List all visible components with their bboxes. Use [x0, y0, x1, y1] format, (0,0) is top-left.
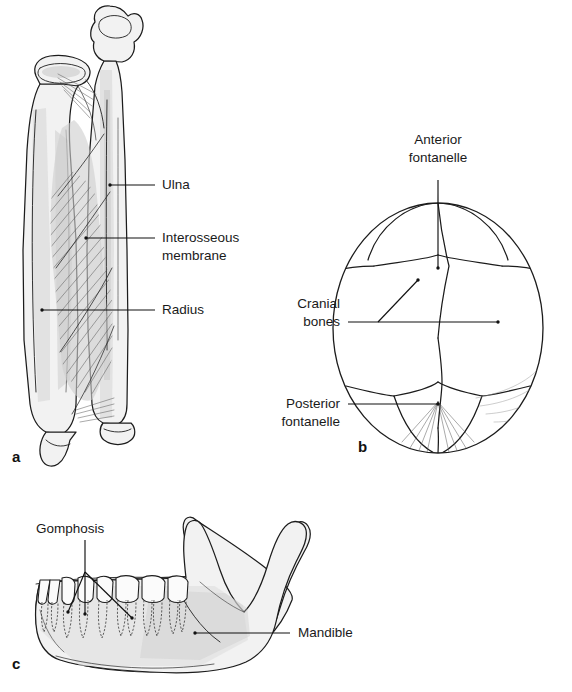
panel-a-illustration: Ulna Interosseous membrane Radius a	[0, 0, 290, 480]
label-anterior-fontanelle-line1: Anterior	[414, 132, 462, 147]
tooth-premolar-2	[97, 576, 113, 602]
label-cranial-bones-line1: Cranial	[297, 296, 340, 311]
leader-dot-anterior-fontanelle	[436, 266, 439, 269]
leader-dot-ulna	[108, 183, 111, 186]
tooth-molar-2	[142, 576, 165, 603]
label-mandible: Mandible	[298, 625, 353, 640]
anatomy-figure: Ulna Interosseous membrane Radius a	[0, 0, 572, 692]
panel-c-illustration: Gomphosis Mandible c	[0, 490, 440, 692]
panel-letter-c: c	[12, 655, 20, 672]
tooth-molar-1	[116, 576, 139, 603]
leader-dot-radius	[40, 308, 43, 311]
label-anterior-fontanelle-line2: fontanelle	[409, 150, 468, 165]
panel-letter-a: a	[12, 448, 21, 465]
label-radius: Radius	[162, 302, 204, 317]
panel-a-radius-ulna: Ulna Interosseous membrane Radius a	[0, 0, 290, 480]
panel-letter-b: b	[358, 438, 367, 455]
tooth-molar-3	[168, 576, 188, 603]
leader-dot-cranial-bones-diagonal	[416, 278, 419, 281]
panel-b-infant-skull: Anterior fontanelle Cranial bones Poster…	[250, 110, 572, 475]
leader-dot-gomphosis-3	[130, 616, 133, 619]
label-interosseous-membrane-line2: membrane	[162, 248, 227, 263]
label-cranial-bones-line2: bones	[303, 314, 340, 329]
panel-c-mandible: Gomphosis Mandible c	[0, 490, 440, 692]
label-gomphosis: Gomphosis	[36, 521, 105, 536]
leader-dot-gomphosis-2	[83, 612, 86, 615]
leader-dot-interosseous-membrane	[84, 236, 87, 239]
label-ulna: Ulna	[162, 177, 190, 192]
label-interosseous-membrane-line1: Interosseous	[162, 230, 240, 245]
leader-dot-gomphosis-1	[66, 610, 69, 613]
leader-dot-posterior-fontanelle	[436, 402, 439, 405]
panel-b-illustration: Anterior fontanelle Cranial bones Poster…	[250, 110, 572, 475]
leader-dot-mandible	[193, 631, 196, 634]
leader-dot-cranial-bones-horizontal	[496, 320, 499, 323]
label-posterior-fontanelle-line2: fontanelle	[281, 414, 340, 429]
label-posterior-fontanelle-line1: Posterior	[286, 396, 341, 411]
tooth-premolar-1	[78, 576, 94, 602]
